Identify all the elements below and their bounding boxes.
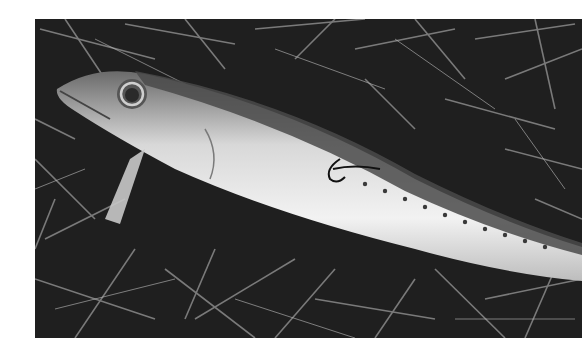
photo-mackerel-on-grass — [35, 19, 582, 338]
fish-eye — [117, 79, 147, 109]
